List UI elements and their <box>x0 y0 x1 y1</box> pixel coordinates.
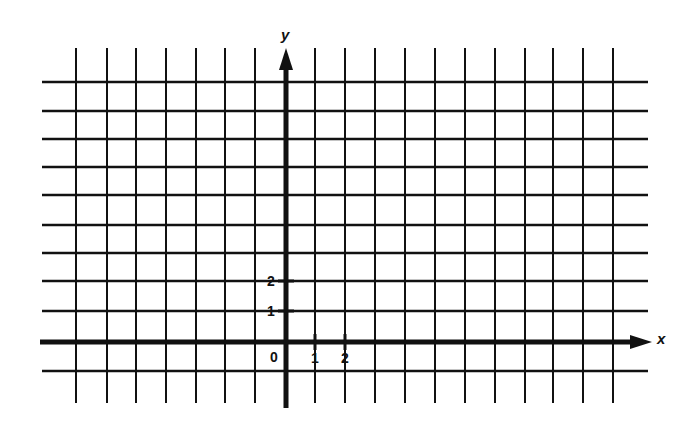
y-tick-label: 2 <box>267 273 275 289</box>
coordinate-plane: x y 12 12 0 <box>0 0 699 422</box>
x-axis-ticks: 12 <box>311 334 349 366</box>
x-tick-label: 1 <box>311 350 319 366</box>
y-axis-arrow-icon <box>279 48 293 70</box>
x-axis-arrow-icon <box>630 335 652 349</box>
x-axis-label: x <box>656 330 666 347</box>
y-axis-label: y <box>280 26 290 43</box>
y-tick-label: 1 <box>267 303 275 319</box>
grid-svg: x y 12 12 0 <box>0 0 699 422</box>
x-axis: x <box>40 330 666 349</box>
y-axis: y <box>279 26 293 408</box>
y-axis-ticks: 12 <box>267 273 294 319</box>
origin-label: 0 <box>270 349 278 365</box>
x-tick-label: 2 <box>341 350 349 366</box>
